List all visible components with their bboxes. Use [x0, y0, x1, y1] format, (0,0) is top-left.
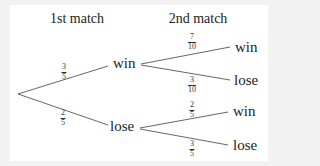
denominator: 5: [190, 111, 194, 119]
denominator: 5: [190, 150, 194, 158]
denominator: 10: [188, 86, 196, 94]
node-second-lose-after-lose: lose: [233, 138, 257, 153]
numerator: 2: [190, 101, 194, 109]
prob-win-lose: 310: [188, 76, 196, 94]
denominator: 5: [62, 73, 66, 81]
numerator: 3: [62, 63, 66, 71]
node-first-win: win: [113, 56, 136, 71]
prob-lose-win: 25: [190, 101, 195, 119]
header-first-match: 1st match: [50, 11, 104, 27]
node-second-win-after-lose: win: [233, 104, 256, 119]
branch-win-lose: [141, 65, 230, 80]
branch-win-win: [141, 47, 230, 64]
branch-lose-lose: [140, 129, 228, 145]
numerator: 3: [190, 76, 194, 84]
numerator: 7: [190, 33, 194, 41]
node-second-win-after-win: win: [235, 40, 258, 55]
branch-lose-win: [140, 112, 228, 128]
numerator: 2: [61, 109, 65, 117]
prob-lose-lose: 35: [190, 140, 195, 158]
prob-first-lose: 25: [61, 109, 66, 127]
denominator: 10: [188, 43, 196, 51]
node-second-lose-after-win: lose: [234, 73, 258, 88]
header-second-match: 2nd match: [169, 11, 228, 27]
node-first-lose: lose: [110, 119, 134, 134]
denominator: 5: [61, 119, 65, 127]
prob-win-win: 710: [188, 33, 196, 51]
numerator: 3: [190, 140, 194, 148]
prob-first-win: 35: [62, 63, 67, 81]
